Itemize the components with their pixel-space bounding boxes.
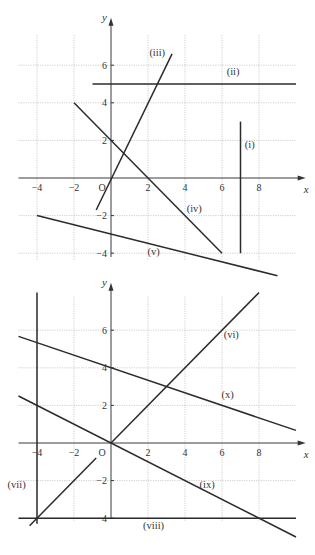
x-tick-label: −2: [69, 182, 80, 193]
x-tick-label: 8: [257, 447, 262, 458]
y-axis-arrow-icon: [109, 283, 114, 291]
y-tick-label: 4: [102, 97, 107, 108]
line-label: (viii): [143, 520, 164, 532]
line-label: (ix): [200, 479, 216, 491]
x-tick-label: 2: [146, 447, 151, 458]
x-tick-label: 8: [257, 182, 262, 193]
y-tick-label: 4: [102, 362, 107, 373]
y-axis-arrow-icon: [109, 18, 114, 26]
x-tick-label: 6: [220, 182, 225, 193]
graph-panel-2: −4−22468−4−2246Oxy(vi)(vii)(viii)(ix)(x): [8, 276, 309, 537]
x-axis-label: x: [303, 448, 309, 460]
x-axis-label: x: [303, 183, 309, 195]
line-label: (ii): [227, 66, 240, 78]
x-tick-label: −2: [69, 447, 80, 458]
y-axis-label: y: [101, 276, 107, 288]
x-tick-label: 2: [146, 182, 151, 193]
line-ix: [19, 396, 297, 537]
graph-panel-1: −4−22468−4−2246Oxy(i)(ii)(iii)(iv)(v): [19, 11, 309, 276]
line-label: (iii): [149, 47, 165, 59]
y-tick-label: −2: [96, 210, 107, 221]
y-tick-label: 2: [102, 400, 107, 411]
line-vii-diag: [30, 458, 97, 526]
x-tick-label: 6: [220, 447, 225, 458]
y-tick-label: 6: [102, 325, 107, 336]
y-tick-label: −2: [96, 475, 107, 486]
line-vi: [111, 293, 259, 443]
x-axis-arrow-icon: [298, 176, 306, 181]
graphs-figure: −4−22468−4−2246Oxy(i)(ii)(iii)(iv)(v)−4−…: [0, 0, 315, 555]
line-label: (vii): [8, 479, 27, 491]
line-label: (v): [147, 246, 160, 258]
x-tick-label: −4: [32, 182, 43, 193]
line-label: (x): [221, 389, 234, 401]
line-iii: [96, 54, 172, 210]
y-tick-label: −4: [96, 248, 107, 259]
x-axis-arrow-icon: [298, 441, 306, 446]
origin-label: O: [98, 447, 105, 458]
y-axis-label: y: [101, 11, 107, 23]
x-tick-label: 4: [183, 447, 188, 458]
grid: [19, 296, 297, 522]
line-label: (vi): [224, 329, 240, 341]
x-tick-label: 4: [183, 182, 188, 193]
y-tick-label: 6: [102, 60, 107, 71]
line-label: (iv): [187, 203, 203, 215]
line-label: (i): [245, 139, 255, 151]
line-x: [19, 336, 297, 430]
